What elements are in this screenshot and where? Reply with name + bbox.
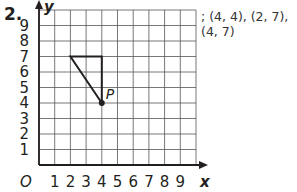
x-tick-label: 9: [176, 173, 186, 191]
y-tick-label: 3: [19, 110, 29, 128]
x-tick-label: 7: [144, 173, 154, 191]
y-tick-label: 6: [19, 63, 29, 81]
x-tick-label: 5: [113, 173, 123, 191]
x-axis-arrow-icon: [199, 161, 208, 169]
point-p-label: P: [106, 86, 115, 102]
origin-label: O: [20, 173, 32, 191]
y-tick-label: 9: [19, 17, 29, 35]
y-axis-arrow-icon: [35, 0, 43, 9]
y-tick-label: 7: [19, 48, 29, 66]
x-tick-label: 4: [97, 173, 107, 191]
y-tick-label: 5: [19, 79, 29, 97]
x-tick-label: 8: [160, 173, 170, 191]
x-tick-label: 6: [128, 173, 138, 191]
y-tick-label: 8: [19, 32, 29, 50]
y-axis-label: y: [44, 0, 55, 16]
x-tick-label: 2: [66, 173, 76, 191]
tick-labels: 123456789123456789Oxy: [19, 0, 211, 191]
coordinate-grid: 123456789123456789Oxy P: [0, 0, 297, 192]
triangle: P: [70, 57, 114, 107]
y-tick-label: 4: [19, 94, 29, 112]
x-tick-label: 1: [50, 173, 60, 191]
point-p-dot: [99, 100, 105, 106]
y-tick-label: 2: [19, 125, 29, 143]
grid-lines: [39, 10, 196, 165]
x-tick-label: 3: [81, 173, 91, 191]
y-tick-label: 1: [19, 141, 29, 159]
x-axis-label: x: [199, 173, 211, 191]
